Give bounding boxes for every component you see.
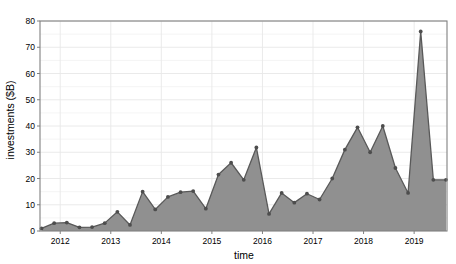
svg-text:0: 0 [30, 226, 35, 236]
svg-text:60: 60 [26, 69, 36, 79]
svg-text:80: 80 [26, 16, 36, 26]
svg-text:2013: 2013 [101, 236, 120, 246]
svg-text:2014: 2014 [152, 236, 171, 246]
svg-text:40: 40 [26, 121, 36, 131]
svg-text:2017: 2017 [304, 236, 323, 246]
y-axis-tick-labels: 01020304050607080 [26, 16, 40, 236]
chart-figure: 01020304050607080 2012201320142015201620… [0, 0, 456, 264]
svg-text:2018: 2018 [354, 236, 373, 246]
svg-text:2012: 2012 [51, 236, 70, 246]
svg-text:10: 10 [26, 200, 36, 210]
svg-text:20: 20 [26, 174, 36, 184]
svg-text:50: 50 [26, 95, 36, 105]
svg-text:2016: 2016 [253, 236, 272, 246]
x-axis-tick-labels: 20122013201420152016201720182019 [51, 231, 424, 246]
investments-area-chart: 01020304050607080 2012201320142015201620… [0, 0, 456, 264]
area-fill [42, 32, 446, 232]
svg-text:30: 30 [26, 147, 36, 157]
svg-text:2015: 2015 [202, 236, 221, 246]
svg-text:2019: 2019 [405, 236, 424, 246]
svg-text:70: 70 [26, 42, 36, 52]
